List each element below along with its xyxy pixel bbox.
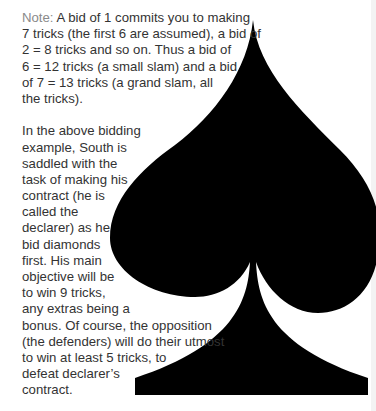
- paragraph-line: any extras being a: [22, 301, 261, 317]
- paragraph-line: bid diamonds: [22, 237, 261, 253]
- paragraph-line: defeat declarer’s: [22, 366, 261, 382]
- note-line: the tricks).: [22, 91, 261, 107]
- paragraph-line: saddled with the: [22, 156, 261, 172]
- note-line: 7 tricks (the first 6 are assumed), a bi…: [22, 26, 261, 42]
- paragraph-gap: [22, 107, 261, 123]
- note-line: Note: A bid of 1 commits you to making: [22, 10, 261, 26]
- paragraph-line: to win 9 tricks,: [22, 285, 261, 301]
- paragraph-line: called the: [22, 204, 261, 220]
- paragraph-line: objective will be: [22, 269, 261, 285]
- note-label: Note:: [22, 10, 54, 25]
- paragraph-line: contract.: [22, 382, 261, 398]
- paragraph-line: task of making his: [22, 172, 261, 188]
- note-line: 2 = 8 tricks and so on. Thus a bid of: [22, 42, 261, 58]
- note-line: 6 = 12 tricks (a small slam) and a bid: [22, 59, 261, 75]
- body-text: Note: A bid of 1 commits you to making 7…: [22, 10, 261, 399]
- paragraph-line: (the defenders) will do their utmost: [22, 334, 261, 350]
- paragraph-line: example, South is: [22, 140, 261, 156]
- paragraph-line: to win at least 5 tricks, to: [22, 350, 261, 366]
- note-line: of 7 = 13 tricks (a grand slam, all: [22, 75, 261, 91]
- paragraph-line: contract (he is: [22, 188, 261, 204]
- paragraph-line: bonus. Of course, the opposition: [22, 318, 261, 334]
- paragraph-line: In the above bidding: [22, 123, 261, 139]
- paragraph-line: declarer) as he: [22, 220, 261, 236]
- paragraph-line: first. His main: [22, 253, 261, 269]
